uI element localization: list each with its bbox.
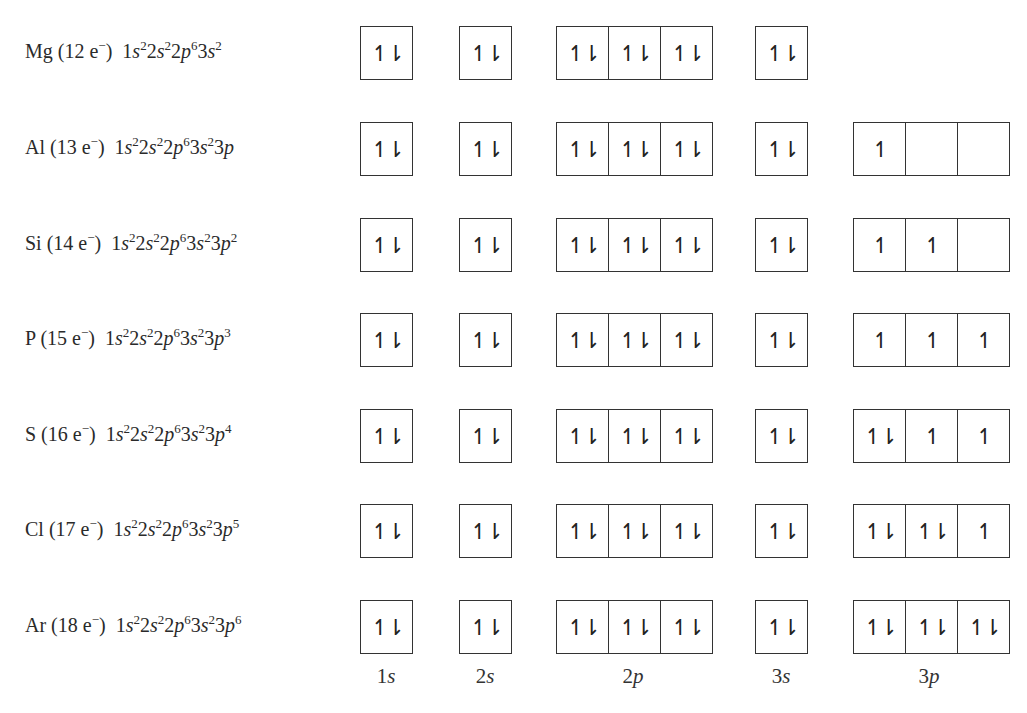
up-spin-arrow-icon: ↿ [854,123,905,175]
orbital-box-2s: ↿⇂ [459,600,512,654]
orbital-box-3p: ↿ [853,122,1010,176]
paired-spin-arrows-icon: ↿⇂ [608,601,660,653]
orbital-label-2s: 2s [476,664,495,689]
paired-spin-arrows-icon: ↿⇂ [660,505,712,557]
orbital-box-3s: ↿⇂ [755,409,808,463]
orbital-box-3s: ↿⇂ [755,600,808,654]
paired-spin-arrows-icon: ↿⇂ [361,601,412,653]
paired-spin-arrows-icon: ↿⇂ [608,219,660,271]
paired-spin-arrows-icon: ↿⇂ [460,410,511,462]
orbital-box-3s: ↿⇂ [755,313,808,367]
paired-spin-arrows-icon: ↿⇂ [608,505,660,557]
paired-spin-arrows-icon: ↿⇂ [557,314,608,366]
orbital-box-2s: ↿⇂ [459,409,512,463]
element-row-cl: Cl (17 e−) 1s22s22p63s23p5↿⇂↿⇂↿⇂↿⇂↿⇂↿⇂↿⇂… [0,504,1027,560]
orbital-label-2p: 2p [623,664,644,689]
orbital-box-1s: ↿⇂ [360,26,413,80]
paired-spin-arrows-icon: ↿⇂ [905,601,957,653]
empty-orbital [905,123,957,175]
orbital-box-2p: ↿⇂↿⇂↿⇂ [556,313,713,367]
orbital-box-2p: ↿⇂↿⇂↿⇂ [556,26,713,80]
orbital-box-2p: ↿⇂↿⇂↿⇂ [556,600,713,654]
paired-spin-arrows-icon: ↿⇂ [361,219,412,271]
paired-spin-arrows-icon: ↿⇂ [460,601,511,653]
paired-spin-arrows-icon: ↿⇂ [361,123,412,175]
paired-spin-arrows-icon: ↿⇂ [361,314,412,366]
element-label: Ar (18 e−) [25,614,116,636]
electron-configuration-label: S (16 e−) 1s22s22p63s23p4 [25,423,232,446]
paired-spin-arrows-icon: ↿⇂ [557,123,608,175]
paired-spin-arrows-icon: ↿⇂ [557,27,608,79]
orbital-box-2p: ↿⇂↿⇂↿⇂ [556,409,713,463]
paired-spin-arrows-icon: ↿⇂ [660,123,712,175]
paired-spin-arrows-icon: ↿⇂ [854,410,905,462]
paired-spin-arrows-icon: ↿⇂ [756,410,807,462]
up-spin-arrow-icon: ↿ [957,314,1009,366]
paired-spin-arrows-icon: ↿⇂ [660,410,712,462]
orbital-box-3p: ↿↿↿ [853,313,1010,367]
electron-configuration-label: Si (14 e−) 1s22s22p63s23p2 [25,232,237,255]
electron-configuration-label: Al (13 e−) 1s22s22p63s23p [25,136,234,159]
empty-orbital [957,123,1009,175]
element-label: Al (13 e−) [25,136,115,158]
paired-spin-arrows-icon: ↿⇂ [756,601,807,653]
orbital-box-2s: ↿⇂ [459,122,512,176]
element-label: Mg (12 e−) [25,40,122,62]
paired-spin-arrows-icon: ↿⇂ [756,123,807,175]
orbital-box-1s: ↿⇂ [360,122,413,176]
paired-spin-arrows-icon: ↿⇂ [608,410,660,462]
up-spin-arrow-icon: ↿ [957,410,1009,462]
paired-spin-arrows-icon: ↿⇂ [361,410,412,462]
orbital-box-3p: ↿⇂↿↿ [853,409,1010,463]
orbital-box-1s: ↿⇂ [360,218,413,272]
orbital-axis-labels: 1s2s2p3s3p [0,664,1027,694]
orbital-box-3p: ↿↿ [853,218,1010,272]
electron-configuration-label: Ar (18 e−) 1s22s22p63s23p6 [25,614,242,637]
paired-spin-arrows-icon: ↿⇂ [854,505,905,557]
electron-configuration-label: Cl (17 e−) 1s22s22p63s23p5 [25,518,239,541]
electron-configuration-label: Mg (12 e−) 1s22s22p63s2 [25,40,222,63]
orbital-box-2s: ↿⇂ [459,26,512,80]
orbital-label-1s: 1s [377,664,396,689]
orbital-box-3s: ↿⇂ [755,122,808,176]
paired-spin-arrows-icon: ↿⇂ [460,27,511,79]
paired-spin-arrows-icon: ↿⇂ [957,601,1009,653]
paired-spin-arrows-icon: ↿⇂ [557,410,608,462]
element-row-p: P (15 e−) 1s22s22p63s23p3↿⇂↿⇂↿⇂↿⇂↿⇂↿⇂↿↿↿ [0,313,1027,369]
element-row-si: Si (14 e−) 1s22s22p63s23p2↿⇂↿⇂↿⇂↿⇂↿⇂↿⇂↿↿ [0,218,1027,274]
orbital-box-3s: ↿⇂ [755,504,808,558]
orbital-box-3s: ↿⇂ [755,26,808,80]
paired-spin-arrows-icon: ↿⇂ [905,505,957,557]
paired-spin-arrows-icon: ↿⇂ [557,505,608,557]
paired-spin-arrows-icon: ↿⇂ [854,601,905,653]
paired-spin-arrows-icon: ↿⇂ [460,123,511,175]
element-label: Si (14 e−) [25,232,111,254]
paired-spin-arrows-icon: ↿⇂ [608,314,660,366]
paired-spin-arrows-icon: ↿⇂ [756,219,807,271]
paired-spin-arrows-icon: ↿⇂ [608,123,660,175]
paired-spin-arrows-icon: ↿⇂ [460,314,511,366]
element-label: S (16 e−) [25,423,106,445]
paired-spin-arrows-icon: ↿⇂ [460,219,511,271]
orbital-box-3p: ↿⇂↿⇂↿⇂ [853,600,1010,654]
paired-spin-arrows-icon: ↿⇂ [557,219,608,271]
paired-spin-arrows-icon: ↿⇂ [756,314,807,366]
up-spin-arrow-icon: ↿ [957,505,1009,557]
orbital-box-1s: ↿⇂ [360,504,413,558]
up-spin-arrow-icon: ↿ [905,314,957,366]
empty-orbital [957,219,1009,271]
orbital-box-3p: ↿⇂↿⇂↿ [853,504,1010,558]
paired-spin-arrows-icon: ↿⇂ [608,27,660,79]
electron-configuration-label: P (15 e−) 1s22s22p63s23p3 [25,327,231,350]
up-spin-arrow-icon: ↿ [854,219,905,271]
orbital-box-1s: ↿⇂ [360,313,413,367]
orbital-box-2p: ↿⇂↿⇂↿⇂ [556,218,713,272]
element-row-mg: Mg (12 e−) 1s22s22p63s2↿⇂↿⇂↿⇂↿⇂↿⇂↿⇂ [0,26,1027,82]
paired-spin-arrows-icon: ↿⇂ [660,27,712,79]
paired-spin-arrows-icon: ↿⇂ [660,219,712,271]
paired-spin-arrows-icon: ↿⇂ [557,601,608,653]
orbital-box-2s: ↿⇂ [459,313,512,367]
orbital-box-2p: ↿⇂↿⇂↿⇂ [556,504,713,558]
paired-spin-arrows-icon: ↿⇂ [361,505,412,557]
element-row-s: S (16 e−) 1s22s22p63s23p4↿⇂↿⇂↿⇂↿⇂↿⇂↿⇂↿⇂↿… [0,409,1027,465]
